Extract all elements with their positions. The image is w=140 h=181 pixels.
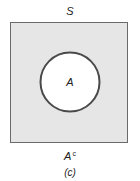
complement-label: Ac [58,148,82,162]
figure-caption: (c) [55,167,85,179]
set-a-label: A [65,76,73,88]
universe-label: S [60,5,80,17]
complement-base: A [64,150,71,162]
complement-superscript: c [72,150,76,157]
